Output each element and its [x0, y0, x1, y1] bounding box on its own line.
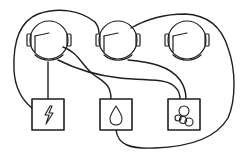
helmet-1 — [27, 21, 71, 60]
astronaut-helmet-icon — [99, 21, 137, 59]
utility-gas — [168, 99, 200, 130]
diagram-canvas — [0, 0, 245, 159]
utilities-diagram — [0, 0, 245, 159]
connection-helmet1-gas — [58, 60, 180, 99]
utility-water — [100, 99, 132, 130]
astronaut-helmet-icon — [30, 21, 68, 59]
utility-electricity — [32, 99, 64, 130]
astronaut-helmet-icon — [168, 21, 206, 59]
helmet-3 — [165, 21, 209, 60]
